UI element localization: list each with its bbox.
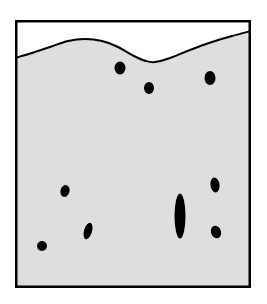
figure-container: [0, 0, 267, 304]
cross-section-figure: [0, 0, 267, 304]
inclusion-1: [115, 62, 126, 75]
figure-content-group: [15, 31, 251, 288]
inclusion-9: [37, 241, 47, 251]
lower-gray-region: [15, 31, 251, 288]
inclusion-3: [205, 71, 216, 85]
inclusion-6: [175, 194, 186, 239]
inclusion-2: [144, 82, 154, 94]
